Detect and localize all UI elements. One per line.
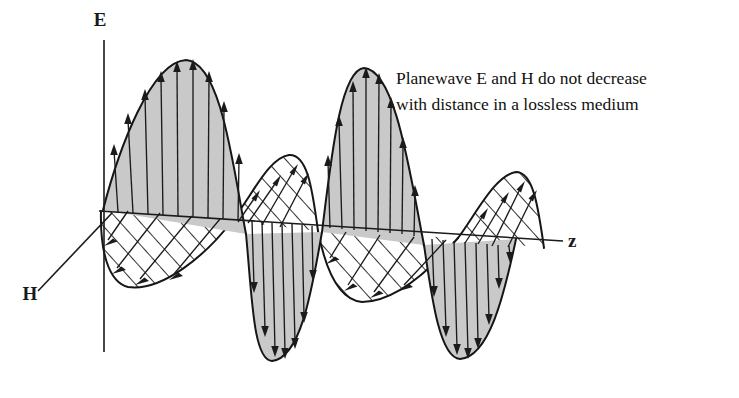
e-lobe-positive-1 bbox=[103, 60, 246, 234]
figure-root: E H z Planewave E and H do not decrease … bbox=[0, 0, 739, 398]
e-axis-label: E bbox=[94, 9, 107, 30]
h-axis-line bbox=[38, 213, 112, 291]
annotation-line-2: with distance in a lossless medium bbox=[396, 94, 639, 114]
annotation-line-1: Planewave E and H do not decrease bbox=[396, 68, 647, 88]
h-axis-label: H bbox=[23, 283, 38, 304]
z-axis-label: z bbox=[568, 230, 577, 251]
planewave-diagram: E H z Planewave E and H do not decrease … bbox=[0, 0, 739, 398]
